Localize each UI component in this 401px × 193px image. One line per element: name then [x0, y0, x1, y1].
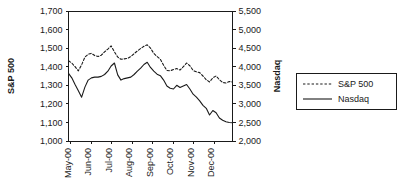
x-tick-label: Jun-00 — [83, 148, 93, 176]
right-tick-label: 2,000 — [239, 136, 262, 146]
right-tick-label: 5,500 — [239, 6, 262, 16]
x-tick-label: Aug-00 — [124, 148, 134, 177]
dual-axis-line-chart: 1,0001,1001,2001,3001,4001,5001,6001,700… — [0, 0, 401, 193]
right-tick-label: 5,000 — [239, 25, 262, 35]
left-tick-label: 1,000 — [40, 136, 63, 146]
left-tick-label: 1,300 — [40, 80, 63, 90]
left-axis-tick-labels: 1,0001,1001,2001,3001,4001,5001,6001,700 — [40, 6, 63, 146]
x-tick-label: May-00 — [63, 148, 73, 178]
chart-container: 1,0001,1001,2001,3001,4001,5001,6001,700… — [0, 0, 401, 193]
right-tick-label: 3,500 — [239, 80, 262, 90]
right-tick-label: 4,500 — [239, 43, 262, 53]
right-tick-label: 3,000 — [239, 99, 262, 109]
left-tick-label: 1,500 — [40, 43, 63, 53]
left-tick-label: 1,600 — [40, 25, 63, 35]
left-tick-label: 1,400 — [40, 62, 63, 72]
right-axis-title: Nasdaq — [272, 60, 282, 93]
left-tick-label: 1,100 — [40, 118, 63, 128]
left-axis-title: S&P 500 — [6, 58, 16, 94]
x-tick-label: Jul-00 — [104, 148, 114, 173]
series-line-nasdaq — [69, 62, 233, 123]
x-tick-label: Nov-00 — [186, 148, 196, 177]
left-tick-label: 1,700 — [40, 6, 63, 16]
legend-label-sp500: S&P 500 — [338, 79, 373, 89]
right-tick-label: 2,500 — [239, 118, 262, 128]
legend: S&P 500 Nasdaq — [297, 74, 397, 110]
x-tick-label: Dec-00 — [206, 148, 216, 177]
axes-group — [69, 11, 233, 142]
left-tick-label: 1,200 — [40, 99, 63, 109]
legend-label-nasdaq: Nasdaq — [338, 94, 369, 104]
x-axis-tick-labels: May-00Jun-00Jul-00Aug-00Sep-00Oct-00Nov-… — [63, 148, 217, 178]
series-group — [69, 45, 233, 123]
x-tick-label: Sep-00 — [145, 148, 155, 177]
x-tick-label: Oct-00 — [165, 148, 175, 175]
right-tick-label: 4,000 — [239, 62, 262, 72]
right-axis-tick-labels: 2,0002,5003,0003,5004,0004,5005,0005,500 — [239, 6, 262, 146]
